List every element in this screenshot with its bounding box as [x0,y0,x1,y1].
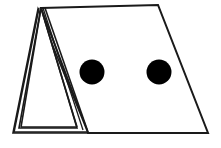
figure-container [0,0,221,148]
dot-left [80,60,105,85]
folded-card-drawing [0,0,221,148]
dot-right [147,60,172,85]
